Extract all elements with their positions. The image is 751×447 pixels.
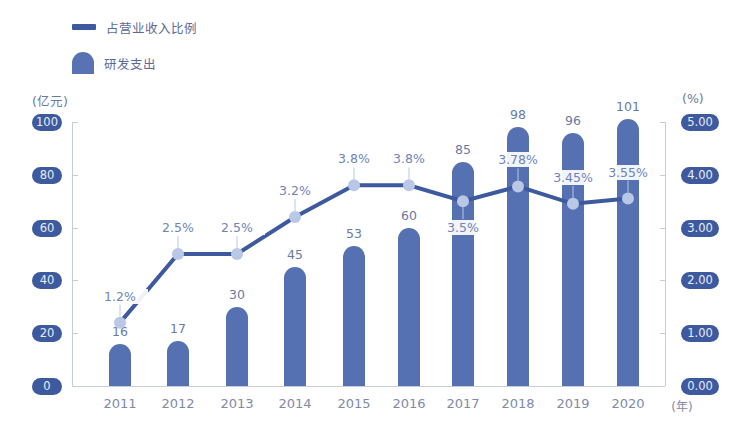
ratio-value-label: 3.8% xyxy=(381,151,437,166)
ratio-marker xyxy=(622,193,634,205)
ratio-value-label: 2.5% xyxy=(150,220,206,235)
ratio-marker xyxy=(457,195,469,207)
ratio-value-label: 3.2% xyxy=(267,183,323,198)
ratio-marker xyxy=(289,211,301,223)
ratio-value-label: 3.5% xyxy=(435,220,491,235)
ratio-value-label: 1.2% xyxy=(92,289,148,304)
ratio-value-label: 3.55% xyxy=(600,165,656,180)
ratio-line xyxy=(0,0,751,447)
ratio-value-label: 3.78% xyxy=(490,152,546,167)
ratio-marker xyxy=(567,198,579,210)
ratio-value-label: 2.5% xyxy=(209,220,265,235)
ratio-marker xyxy=(348,179,360,191)
ratio-marker xyxy=(114,317,126,329)
ratio-marker xyxy=(512,180,524,192)
ratio-value-label: 3.45% xyxy=(545,170,601,185)
ratio-marker xyxy=(231,248,243,260)
ratio-marker xyxy=(172,248,184,260)
ratio-marker xyxy=(403,179,415,191)
ratio-value-label: 3.8% xyxy=(326,151,382,166)
